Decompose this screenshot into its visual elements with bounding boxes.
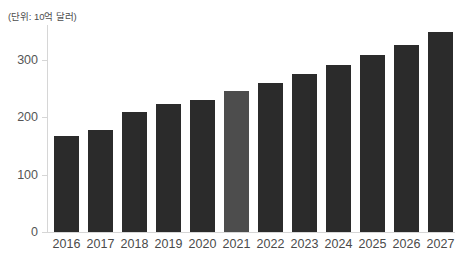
bars-layer [47,25,455,232]
y-tick-label: 300 [17,53,38,66]
bar[interactable] [156,104,181,232]
bar-chart: (단위: 10억 달러) 0100200300 2016201720182019… [0,0,465,270]
y-tick-label: 0 [31,226,38,239]
x-tick-label: 2021 [219,238,254,251]
bar-group[interactable] [151,25,186,232]
x-tick-label: 2026 [389,238,424,251]
bar-group[interactable] [49,25,84,232]
bar-group[interactable] [287,25,322,232]
x-tick-label: 2027 [423,238,458,251]
y-tick-mark [42,232,47,233]
bar-group[interactable] [355,25,390,232]
bar[interactable] [360,55,385,232]
bar[interactable] [394,45,419,232]
x-tick-label: 2022 [253,238,288,251]
x-tick-label: 2023 [287,238,322,251]
bar-group[interactable] [83,25,118,232]
bar-group[interactable] [321,25,356,232]
x-tick-label: 2025 [355,238,390,251]
x-tick-label: 2018 [117,238,152,251]
x-tick-label: 2020 [185,238,220,251]
bar[interactable] [54,136,79,232]
bar-group[interactable] [117,25,152,232]
bar[interactable] [224,91,249,232]
bar-group[interactable] [219,25,254,232]
bar[interactable] [88,130,113,232]
y-tick-label: 100 [17,168,38,181]
x-tick-label: 2017 [83,238,118,251]
x-tick-label: 2019 [151,238,186,251]
bar-group[interactable] [185,25,220,232]
bar-group[interactable] [423,25,458,232]
x-axis-line [47,232,455,233]
y-tick-label: 200 [17,111,38,124]
x-tick-label: 2024 [321,238,356,251]
bar[interactable] [190,100,215,232]
bar[interactable] [258,83,283,232]
bar[interactable] [326,65,351,232]
bar-group[interactable] [253,25,288,232]
x-tick-label: 2016 [49,238,84,251]
bar[interactable] [292,74,317,232]
bar[interactable] [122,112,147,232]
plot-area: 0100200300 20162017201820192020202120222… [47,25,455,232]
bar[interactable] [428,32,453,232]
unit-caption: (단위: 10억 달러) [8,9,77,23]
bar-group[interactable] [389,25,424,232]
